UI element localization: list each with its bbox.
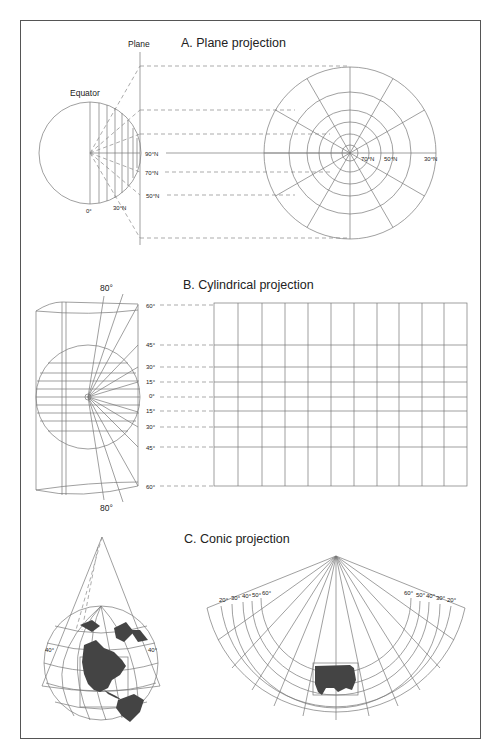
svg-text:60°: 60° bbox=[146, 303, 156, 309]
cone-globe bbox=[42, 537, 160, 722]
equator-label: Equator bbox=[70, 88, 100, 98]
cylindrical-grid bbox=[214, 303, 467, 486]
section-b-cylindrical-projection: B. Cylindrical projection 80° 80° bbox=[36, 278, 467, 513]
section-a-title: A. Plane projection bbox=[181, 36, 286, 50]
section-c-title: C. Conic projection bbox=[184, 532, 290, 546]
cyl-label-bottom-80: 80° bbox=[100, 503, 113, 513]
svg-text:45°: 45° bbox=[146, 342, 156, 348]
svg-text:30°: 30° bbox=[436, 595, 446, 601]
polar-lat-70n: 70°N bbox=[361, 156, 374, 162]
cylinder bbox=[36, 302, 138, 495]
svg-text:60°: 60° bbox=[262, 590, 272, 596]
svg-text:50°: 50° bbox=[252, 592, 262, 598]
svg-text:15°: 15° bbox=[146, 379, 156, 385]
cyl-latitude-labels: 60° 45° 30° 15° 0° 15° 30° 45° 60° bbox=[146, 303, 156, 490]
globe-label-0: 0° bbox=[86, 208, 92, 214]
polar-grid bbox=[264, 67, 436, 239]
svg-text:30°: 30° bbox=[146, 424, 156, 430]
cone-label-right-40: 40° bbox=[148, 647, 158, 653]
svg-text:0°: 0° bbox=[149, 393, 155, 399]
section-a-plane-projection: A. Plane projection Plane Equator 0° 3 bbox=[39, 36, 437, 245]
section-b-title: B. Cylindrical projection bbox=[183, 278, 314, 292]
plane-lat-90n: 90°N bbox=[145, 151, 158, 157]
south-america-land bbox=[116, 694, 144, 722]
svg-text:60°: 60° bbox=[404, 590, 414, 596]
globe-b bbox=[36, 294, 140, 502]
svg-text:40°: 40° bbox=[426, 593, 436, 599]
polar-lat-30n: 30°N bbox=[424, 156, 437, 162]
cyl-label-top-80: 80° bbox=[100, 283, 113, 293]
fan-left-labels: 20° 30° 40° 50° 60° bbox=[219, 590, 272, 603]
plane-lat-50n: 50°N bbox=[146, 193, 159, 199]
svg-text:30°: 30° bbox=[146, 364, 156, 370]
section-c-conic-projection: C. Conic projection bbox=[42, 532, 465, 722]
projections-figure: A. Plane projection Plane Equator 0° 3 bbox=[0, 0, 497, 752]
svg-text:20°: 20° bbox=[219, 597, 229, 603]
conic-fan bbox=[207, 556, 465, 720]
usa-land bbox=[315, 665, 356, 695]
svg-text:40°: 40° bbox=[242, 593, 252, 599]
svg-text:50°: 50° bbox=[416, 592, 426, 598]
svg-text:45°: 45° bbox=[146, 445, 156, 451]
plane-lat-70n: 70°N bbox=[145, 170, 158, 176]
svg-text:15°: 15° bbox=[146, 408, 156, 414]
north-america-land bbox=[82, 640, 126, 692]
svg-text:60°: 60° bbox=[146, 484, 156, 490]
plane-label: Plane bbox=[128, 39, 150, 49]
globe-label-30n: 30°N bbox=[113, 205, 126, 211]
cone-label-left-40: 40° bbox=[45, 647, 55, 653]
fan-right-labels: 60° 50° 40° 30° 20° bbox=[404, 590, 457, 603]
polar-lat-50n: 50°N bbox=[384, 156, 397, 162]
svg-text:30°: 30° bbox=[231, 595, 241, 601]
svg-text:20°: 20° bbox=[447, 597, 457, 603]
